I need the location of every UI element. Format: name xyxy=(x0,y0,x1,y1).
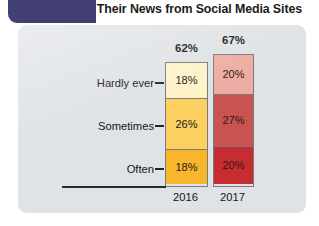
bar-segment-2016-sometimes[interactable]: 26% xyxy=(166,98,207,149)
bar-segment-2017-sometimes[interactable]: 27% xyxy=(214,94,253,146)
x-axis-label-2016: 2016 xyxy=(163,191,208,203)
segment-value-2016-hardly-ever: 18% xyxy=(175,75,197,86)
category-label-often: Often xyxy=(127,164,154,175)
category-label-hardly-ever: Hardly ever xyxy=(97,78,154,89)
category-label-sometimes: Sometimes xyxy=(98,121,154,132)
bar-segment-2017-hardly-ever[interactable]: 20% xyxy=(214,55,253,94)
header-accent-band xyxy=(8,0,96,23)
bar-segment-2017-often[interactable]: 20% xyxy=(214,146,253,184)
segment-value-2016-sometimes: 26% xyxy=(175,119,197,130)
segment-value-2017-sometimes: 27% xyxy=(222,115,244,126)
total-label-2016: 62% xyxy=(165,42,208,54)
segment-value-2016-often: 18% xyxy=(175,162,197,173)
chart-panel: Hardly ever Sometimes Often 62% 67% 18% … xyxy=(18,25,306,213)
bar-segment-2016-hardly-ever[interactable]: 18% xyxy=(166,63,207,98)
stacked-bar-2016[interactable]: 18% 26% 18% xyxy=(165,62,208,187)
connector-dash-sometimes xyxy=(155,125,164,127)
connector-dash-hardly-ever xyxy=(155,82,164,84)
axis-baseline xyxy=(62,186,166,188)
page-title: Their News from Social Media Sites xyxy=(90,2,302,16)
x-axis-label-2017: 2017 xyxy=(211,191,254,203)
total-label-2017: 67% xyxy=(213,34,254,46)
connector-dash-often xyxy=(155,168,164,170)
plot-area: Hardly ever Sometimes Often 62% 67% 18% … xyxy=(18,25,306,213)
stacked-bar-2017[interactable]: 20% 27% 20% xyxy=(213,54,254,187)
bar-segment-2016-often[interactable]: 18% xyxy=(166,149,207,184)
segment-value-2017-hardly-ever: 20% xyxy=(222,69,244,80)
segment-value-2017-often: 20% xyxy=(222,160,244,171)
